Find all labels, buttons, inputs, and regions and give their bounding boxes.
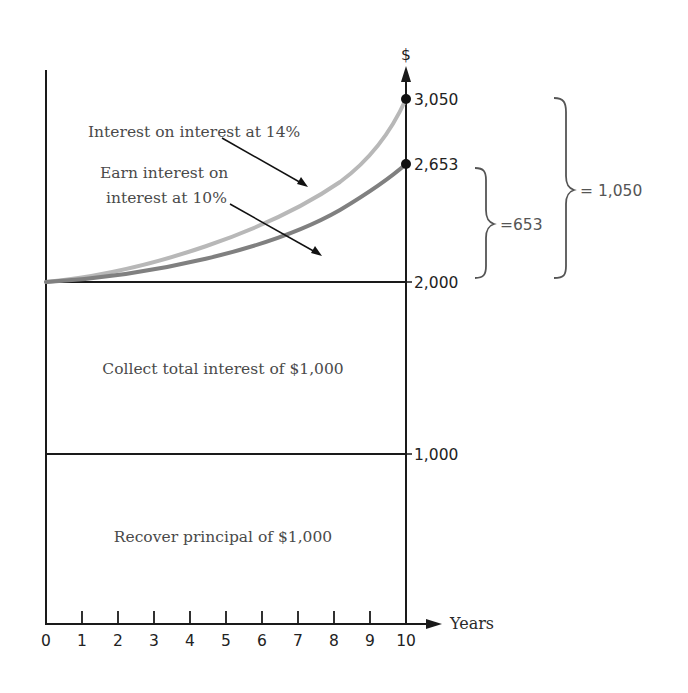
- annotation-14-percent: Interest on interest at 14%: [88, 123, 300, 141]
- brace-label-1050: = 1,050: [580, 182, 642, 200]
- annotation-10-percent-line1: Earn interest on: [100, 164, 228, 182]
- x-ticks: [82, 611, 370, 624]
- x-axis-arrow-icon: [426, 619, 442, 629]
- y-axis-arrow-icon: [401, 66, 411, 82]
- pointer-14-arrow-icon: [297, 177, 308, 187]
- brace-1050-icon: [554, 98, 574, 278]
- annotation-10-percent-line2: interest at 10%: [106, 189, 227, 207]
- x-tick-label: 9: [365, 632, 375, 650]
- region-label-principal: Recover principal of $1,000: [114, 528, 332, 546]
- x-tick-label: 8: [329, 632, 339, 650]
- region-label-interest: Collect total interest of $1,000: [102, 360, 343, 378]
- brace-label-653: =653: [500, 216, 543, 234]
- x-tick-labels: 0 1 2 3 4 5 6 7 8 9 10: [41, 632, 416, 650]
- pointer-10-arrow-icon: [311, 246, 322, 256]
- value-label-1000: 1,000: [414, 446, 458, 464]
- brace-653-icon: [475, 168, 494, 278]
- value-label-2653: 2,653: [414, 156, 458, 174]
- pointer-14-line: [222, 138, 303, 184]
- x-tick-label: 7: [293, 632, 303, 650]
- value-label-3050: 3,050: [414, 91, 458, 109]
- x-tick-label: 3: [149, 632, 159, 650]
- chart: $ Years 0 1 2 3 4 5 6 7 8 9 10 3,050: [0, 0, 688, 693]
- y-axis-symbol: $: [401, 46, 411, 64]
- x-axis-title: Years: [449, 614, 494, 633]
- x-tick-label: 6: [257, 632, 267, 650]
- x-tick-label: 10: [396, 632, 416, 650]
- x-tick-label: 0: [41, 632, 51, 650]
- endpoint-3050-icon: [401, 94, 411, 104]
- x-tick-label: 4: [185, 632, 195, 650]
- x-tick-label: 5: [221, 632, 231, 650]
- x-tick-label: 1: [77, 632, 87, 650]
- endpoint-2653-icon: [401, 159, 411, 169]
- x-tick-label: 2: [113, 632, 123, 650]
- value-label-2000: 2,000: [414, 274, 458, 292]
